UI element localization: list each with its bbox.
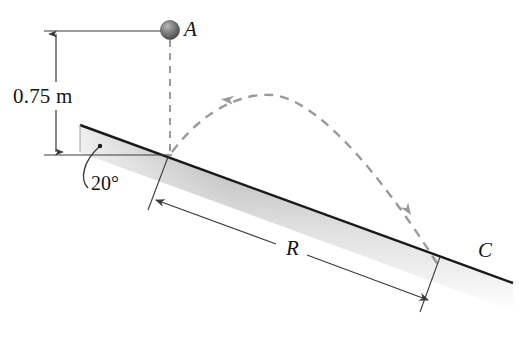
trajectory-arrow-2 [401, 203, 415, 218]
inclined-plane [80, 125, 513, 311]
range-label: R [286, 238, 299, 259]
figure-canvas [0, 0, 519, 343]
angle-leader-dot [98, 144, 102, 148]
trajectory-arrow-1 [221, 94, 235, 104]
height-label: 0.75 m [13, 86, 73, 107]
angle-label: 20° [91, 173, 119, 193]
incline-highlight [80, 125, 513, 311]
point-c-label: C [478, 240, 492, 261]
physics-figure: 0.75 m 20° A R C [0, 0, 519, 343]
ball-at-a [161, 21, 180, 40]
point-a-label: A [184, 19, 197, 40]
